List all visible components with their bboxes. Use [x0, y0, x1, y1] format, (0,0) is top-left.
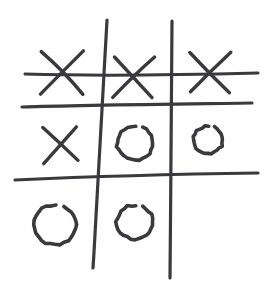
cell-bottom-center[interactable]	[101, 188, 169, 256]
cell-bottom-left[interactable]	[21, 191, 89, 259]
cell-top-left[interactable]	[28, 39, 96, 107]
cell-middle-center[interactable]	[101, 109, 169, 177]
cell-top-center[interactable]	[99, 42, 167, 110]
cell-top-right[interactable]	[176, 38, 244, 106]
cell-middle-right[interactable]	[174, 106, 242, 174]
cell-bottom-right[interactable]	[176, 188, 244, 256]
tic-tac-toe-board	[0, 0, 275, 295]
cell-middle-left[interactable]	[27, 111, 95, 179]
grid-vertical-line-right	[170, 21, 172, 278]
